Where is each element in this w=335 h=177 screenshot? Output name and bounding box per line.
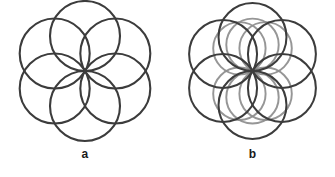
panel-a-canvas	[0, 0, 170, 145]
panel-a-label: a	[0, 146, 170, 162]
panel-a: a	[0, 0, 170, 177]
panel-b: b	[170, 0, 335, 177]
figure-root: a b	[0, 0, 335, 177]
panel-b-canvas	[170, 0, 335, 145]
ring-group-dark-rings	[20, 1, 151, 141]
panel-b-label: b	[170, 146, 335, 162]
ring-group-dark-rings	[189, 3, 316, 139]
